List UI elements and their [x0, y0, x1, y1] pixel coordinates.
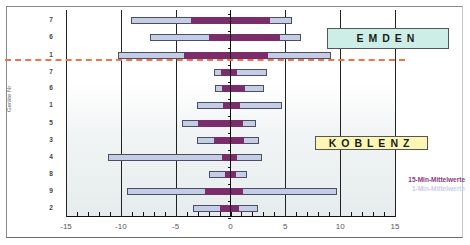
y-tick: [228, 99, 231, 100]
x-gridline: [121, 10, 122, 217]
bar-1-min-range: [108, 154, 263, 161]
x-minor-tick: [351, 212, 352, 216]
y-tick: [228, 82, 231, 83]
x-minor-tick: [88, 212, 89, 216]
y-category-label: 4: [46, 153, 56, 160]
x-gridline: [66, 10, 67, 217]
x-minor-tick: [77, 212, 78, 216]
x-minor-tick: [329, 212, 330, 216]
group-divider-line: [5, 59, 405, 61]
y-tick: [228, 133, 231, 134]
zero-axis-line: [230, 10, 231, 217]
x-minor-tick: [209, 212, 210, 216]
y-category-label: 2: [46, 204, 56, 211]
x-minor-tick: [296, 212, 297, 216]
x-minor-tick: [154, 212, 155, 216]
x-minor-tick: [187, 212, 188, 216]
x-minor-tick: [241, 212, 242, 216]
x-gridline: [231, 212, 232, 216]
y-tick: [228, 150, 231, 151]
bar-15-min-range: [205, 188, 242, 195]
x-minor-tick: [220, 212, 221, 216]
y-tick: [228, 218, 231, 219]
y-tick: [228, 116, 231, 117]
bar-15-min-range: [198, 120, 243, 127]
bar-15-min-range: [184, 52, 267, 59]
y-category-label: 6: [46, 84, 56, 91]
y-tick: [228, 167, 231, 168]
koblenz-label-box: KOBLENZ: [315, 136, 428, 150]
legend-1-min: 1-Min-Mittelwerte: [405, 185, 465, 192]
x-minor-tick: [165, 212, 166, 216]
y-axis-title: Geräte Nr: [6, 86, 12, 112]
x-minor-tick: [110, 212, 111, 216]
x-minor-tick: [362, 212, 363, 216]
x-minor-tick: [384, 212, 385, 216]
x-tick-label: 0: [219, 222, 243, 231]
y-category-label: 7: [46, 16, 56, 23]
bar-15-min-range: [221, 69, 237, 76]
x-minor-tick: [274, 212, 275, 216]
emden-label-box: EMDEN: [327, 28, 449, 49]
x-minor-tick: [99, 212, 100, 216]
x-gridline: [285, 10, 286, 217]
y-tick: [228, 31, 231, 32]
x-minor-tick: [132, 212, 133, 216]
y-tick: [228, 184, 231, 185]
bar-15-min-range: [214, 137, 244, 144]
y-category-label: 8: [46, 170, 56, 177]
x-minor-tick: [143, 212, 144, 216]
y-tick: [228, 201, 231, 202]
y-category-label: 6: [46, 33, 56, 40]
y-tick: [228, 14, 231, 15]
x-minor-tick: [307, 212, 308, 216]
x-tick-label: 10: [328, 222, 352, 231]
bar-15-min-range: [222, 85, 245, 92]
x-minor-tick: [373, 212, 374, 216]
y-category-label: 7: [46, 68, 56, 75]
bar-15-min-range: [209, 34, 280, 41]
x-tick-label: 5: [273, 222, 297, 231]
y-tick: [228, 65, 231, 66]
y-category-label: 3: [46, 136, 56, 143]
x-tick-label: -15: [54, 222, 78, 231]
x-gridline: [176, 10, 177, 217]
y-category-label: 1: [46, 51, 56, 58]
legend-15-min: 15-Min-Mittelwerte: [405, 176, 465, 183]
x-minor-tick: [252, 212, 253, 216]
bar-15-min-range: [223, 102, 241, 109]
y-category-label: 1: [46, 101, 56, 108]
y-tick: [228, 48, 231, 49]
y-category-label: 5: [46, 119, 56, 126]
x-minor-tick: [263, 212, 264, 216]
x-minor-tick: [318, 212, 319, 216]
x-tick-label: -10: [109, 222, 133, 231]
y-category-label: 9: [46, 187, 56, 194]
x-tick-label: 15: [383, 222, 407, 231]
x-tick-label: -5: [164, 222, 188, 231]
x-minor-tick: [198, 212, 199, 216]
